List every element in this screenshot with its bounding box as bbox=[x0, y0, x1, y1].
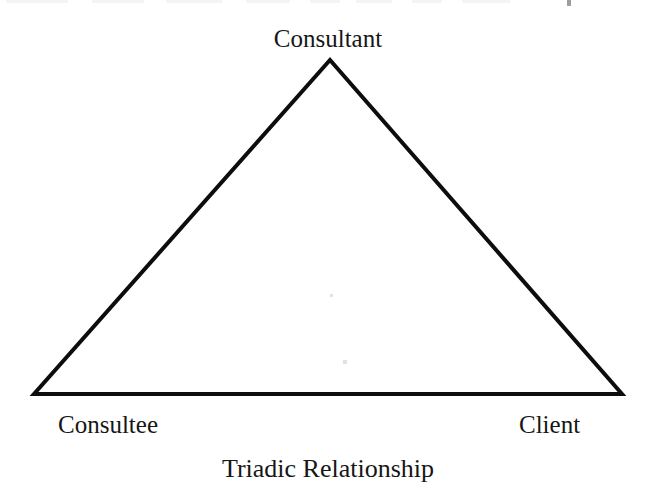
vertex-label-client: Client bbox=[519, 412, 580, 437]
triangle-outline bbox=[34, 60, 622, 394]
figure-caption: Triadic Relationship bbox=[0, 456, 656, 482]
vertex-label-consultant: Consultant bbox=[0, 26, 656, 51]
scanned-figure-page: Consultant Consultee Client Triadic Rela… bbox=[0, 0, 656, 491]
vertex-label-consultee: Consultee bbox=[58, 412, 158, 437]
